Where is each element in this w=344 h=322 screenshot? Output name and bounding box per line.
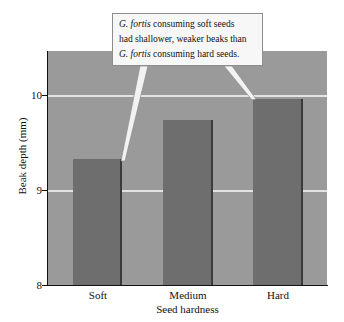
y-tick-label-9: 9 [37,185,43,196]
y-tick-mark-8 [42,285,48,286]
y-axis-line [47,51,48,286]
species-name-italic-2: G. fortis [119,49,151,59]
callout-line-3: G. fortis consuming hard seeds. [119,47,257,62]
x-axis-title: Seed hardness [48,303,327,315]
bar-medium[interactable] [163,120,213,286]
x-axis-line [47,285,328,286]
callout-line-1: G. fortis consuming soft seeds [119,17,257,32]
bar-chart-figure: 10 9 8 Beak depth (mm) Soft Medium Hard … [0,0,344,322]
x-tick-label-hard: Hard [238,289,318,301]
x-tick-label-soft: Soft [58,289,138,301]
y-tick-mark-10 [42,95,48,96]
x-tick-label-medium: Medium [148,289,228,301]
y-tick-mark-9 [42,190,48,191]
species-name-italic: G. fortis [119,19,151,29]
callout-line-3-rest: consuming hard seeds. [151,49,240,59]
bar-soft[interactable] [73,159,122,285]
callout-annotation: G. fortis consuming soft seeds had shall… [112,13,263,66]
plot-area [48,51,327,285]
callout-line-2: had shallower, weaker beaks than [119,32,257,47]
callout-line-1-rest: consuming soft seeds [151,19,235,29]
bar-hard[interactable] [253,99,303,285]
y-tick-label-8: 8 [37,280,43,291]
y-tick-label-10: 10 [31,90,42,101]
y-axis-title: Beak depth (mm) [16,86,28,226]
gridline-10 [48,95,327,97]
